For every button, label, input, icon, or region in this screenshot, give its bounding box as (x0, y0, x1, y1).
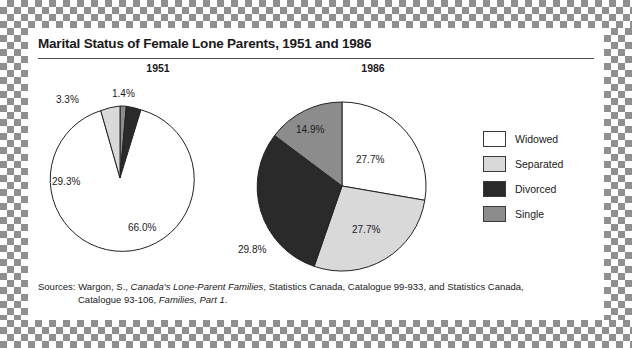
legend-item-separated: Separated (483, 153, 593, 174)
page-title: Marital Status of Female Lone Parents, 1… (38, 36, 371, 51)
slice-label-1986-widowed: 27.7% (356, 154, 384, 165)
source-line1-a: Wargon, S., (78, 281, 130, 292)
legend-item-divorced: Divorced (483, 178, 593, 199)
legend-swatch-divorced (483, 181, 506, 197)
slice-label-1986-separated: 27.7% (352, 224, 380, 235)
slice-label-1951-separated: 29.3% (52, 176, 80, 187)
decorative-border-left (0, 28, 28, 320)
slice-label-1986-divorced: 29.8% (238, 244, 266, 255)
source-line2-a: Catalogue 93-106, (78, 294, 159, 305)
source-line1-b: , Statistics Canada, Catalogue 99-933, a… (263, 281, 523, 292)
legend-swatch-single (483, 206, 506, 222)
source-note: Sources: Wargon, S., Canada's Lone-Paren… (38, 280, 598, 306)
source-line2-italic: Families, Part 1 (159, 294, 225, 305)
chart-panel: Marital Status of Female Lone Parents, 1… (28, 28, 604, 320)
legend-label-widowed: Widowed (515, 133, 558, 145)
legend: Widowed Separated Divorced Single (483, 128, 593, 228)
pie-1986-svg (252, 96, 432, 276)
pie-chart-1951: 3.3% 1.4% 29.3% 66.0% (42, 100, 202, 260)
slice-label-1986-single: 14.9% (296, 124, 324, 135)
decorative-border-right (604, 28, 632, 320)
decorative-border-top (0, 0, 632, 28)
legend-item-single: Single (483, 203, 593, 224)
legend-label-divorced: Divorced (515, 183, 556, 195)
decorative-border-bottom (0, 320, 632, 348)
pie-chart-1986: 14.9% 27.7% 27.7% 29.8% (252, 96, 432, 276)
source-line1-italic: Canada's Lone-Parent Families (131, 281, 264, 292)
legend-label-separated: Separated (515, 158, 563, 170)
legend-swatch-separated (483, 156, 506, 172)
legend-label-single: Single (515, 208, 544, 220)
legend-item-widowed: Widowed (483, 128, 593, 149)
source-line2-b: . (225, 294, 228, 305)
chart-heading-1986: 1986 (333, 62, 413, 74)
title-divider (38, 58, 594, 59)
figure-container: Marital Status of Female Lone Parents, 1… (0, 0, 632, 348)
chart-heading-1951: 1951 (118, 62, 198, 74)
slice-label-1951-widowed: 66.0% (128, 222, 156, 233)
slice-label-1951-single: 1.4% (112, 88, 135, 99)
source-prefix: Sources: (38, 281, 76, 292)
slice-1986-widowed (342, 102, 426, 200)
legend-swatch-widowed (483, 131, 506, 147)
slice-label-1951-divorced: 3.3% (56, 94, 79, 105)
